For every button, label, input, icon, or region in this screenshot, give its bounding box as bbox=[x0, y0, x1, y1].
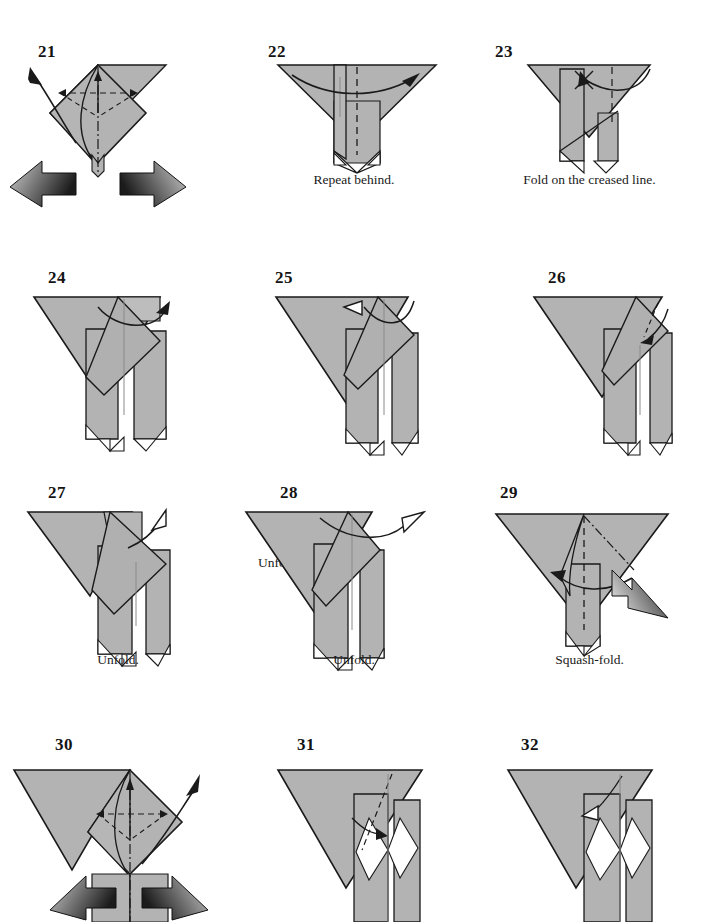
step-caption-29: Squash-fold. bbox=[472, 652, 707, 668]
step-figure-32 bbox=[472, 752, 707, 922]
step-cell-24: 24 bbox=[0, 235, 236, 470]
step-caption-22: Repeat behind. bbox=[236, 172, 472, 188]
arrow-head bbox=[28, 67, 42, 85]
step-cell-28: 28 bbox=[236, 470, 472, 720]
push-arrow-right bbox=[120, 161, 186, 207]
step-cell-25: 25 bbox=[236, 235, 472, 470]
step-figure-26 bbox=[472, 285, 707, 465]
step-cell-27: 27 bbox=[0, 470, 236, 720]
step-cell-22: 22 bbox=[236, 0, 472, 235]
step-figure-22 bbox=[236, 55, 472, 175]
push-arrow-left bbox=[10, 161, 76, 207]
step-cell-30: 30 bbox=[0, 720, 236, 918]
paper-facet bbox=[566, 564, 600, 646]
step-cell-23: 23 bbox=[472, 0, 707, 235]
paper-facet bbox=[598, 113, 618, 161]
step-figure-31 bbox=[236, 752, 472, 922]
step-caption-27: Unfold. bbox=[0, 652, 236, 668]
step-cell-21: 21 bbox=[0, 0, 236, 235]
step-caption-28: Unfold. bbox=[236, 652, 472, 668]
step-cell-32: 32 bbox=[472, 720, 707, 918]
arrow-head bbox=[58, 89, 66, 97]
step-figure-25 bbox=[236, 285, 472, 465]
step-cell-26: 26 bbox=[472, 235, 707, 470]
step-cell-29: 29 bbox=[472, 470, 707, 720]
arrow-head-hollow bbox=[402, 512, 424, 532]
arrow-head bbox=[186, 774, 200, 796]
paper-facet bbox=[650, 333, 672, 443]
step-figure-24 bbox=[0, 285, 236, 465]
arrow-head-hollow bbox=[152, 510, 166, 530]
step-caption-23: Fold on the creased line. bbox=[472, 172, 707, 188]
step-figure-21 bbox=[0, 55, 236, 225]
step-figure-23 bbox=[472, 55, 707, 175]
step-cell-31: 31 bbox=[236, 720, 472, 918]
step-figure-30 bbox=[0, 752, 236, 922]
